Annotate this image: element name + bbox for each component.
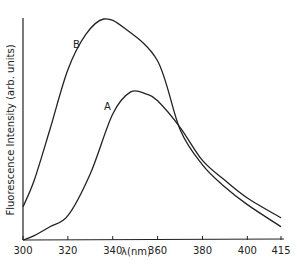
x-tick-label: 400 bbox=[238, 245, 257, 256]
series-B-label: B bbox=[73, 39, 80, 50]
x-axis bbox=[23, 239, 284, 240]
series-A-label: A bbox=[104, 101, 111, 112]
series-B-line bbox=[23, 19, 281, 227]
x-tick-label: 300 bbox=[13, 245, 32, 256]
x-tick-label: 340 bbox=[103, 245, 122, 256]
plot-area: 300320340360380400415λ(nm)Fluorescence I… bbox=[0, 0, 297, 271]
chart: 300320340360380400415λ(nm)Fluorescence I… bbox=[0, 0, 297, 271]
x-tick-label: 380 bbox=[193, 245, 212, 256]
series-A-line bbox=[23, 91, 281, 240]
x-tick-label: 320 bbox=[58, 245, 77, 256]
x-tick-label: 360 bbox=[148, 245, 167, 256]
x-tick-label: 415 bbox=[271, 245, 290, 256]
y-axis-label: Fluorescence Intensity (arb. units) bbox=[5, 44, 16, 215]
x-axis-label: λ(nm) bbox=[121, 246, 151, 257]
